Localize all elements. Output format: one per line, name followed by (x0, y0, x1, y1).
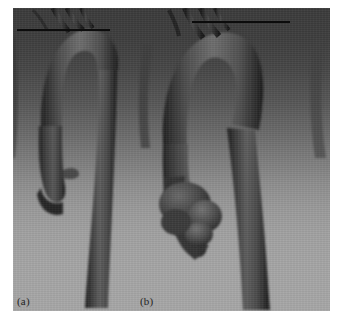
panel-a-branch-3 (81, 8, 93, 28)
figure-root: (a) (b) (0, 0, 342, 326)
panel-b-branch-vessels (169, 8, 229, 38)
panel-b-branch-3 (215, 8, 229, 30)
vessel-rendering-layer (13, 8, 330, 311)
panel-label-a: (a) (17, 296, 30, 307)
panel-b-descending-aorta (227, 128, 270, 310)
panel-b-adjacent-structure (310, 38, 326, 158)
panel-b-aneurysm-lobe-left (161, 209, 191, 235)
panel-a-ascending-aorta (39, 126, 66, 202)
panel-label-b: (b) (140, 296, 153, 307)
volume-rendering-canvas: (a) (b) (13, 8, 330, 311)
panel-a-adjacent-structure (139, 44, 152, 148)
panel-b-branch-4 (169, 10, 179, 36)
reference-line-b (192, 21, 290, 23)
panel-a-vessel-stump (63, 168, 79, 179)
panel-a-branch-4 (33, 10, 47, 30)
panel-a-vessel-group (37, 29, 118, 308)
panel-a-left-edge-structure (13, 38, 18, 158)
panel-a-descending-aorta (85, 66, 117, 308)
panel-b-aneurysm-bulge (159, 182, 222, 246)
reference-line-a (17, 29, 110, 31)
panel-b-vessel-group (163, 33, 270, 310)
